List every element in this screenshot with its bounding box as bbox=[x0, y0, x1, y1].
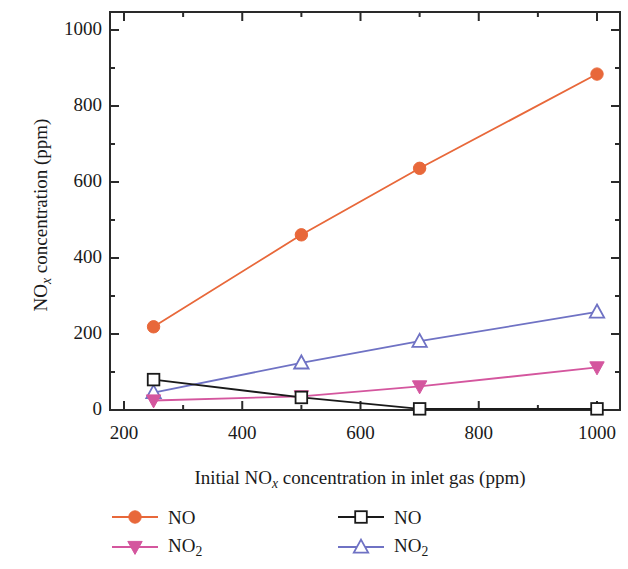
legend-item[interactable]: NO2 bbox=[338, 534, 428, 560]
legend-item[interactable]: NO bbox=[338, 504, 421, 530]
legend-label: NO2 bbox=[168, 536, 202, 559]
x-axis-tick-label: 800 bbox=[444, 422, 514, 444]
series-line bbox=[154, 367, 597, 400]
legend-label: NO2 bbox=[394, 536, 428, 559]
y-axis-tick-label: 0 bbox=[32, 398, 102, 420]
series-line bbox=[154, 380, 597, 409]
data-point-marker bbox=[355, 511, 367, 523]
y-axis-title-pre: NO bbox=[30, 284, 51, 311]
y-axis-tick-label: 600 bbox=[32, 170, 102, 192]
data-point-marker bbox=[129, 511, 141, 523]
legend-label-subscript: 2 bbox=[195, 544, 202, 559]
data-point-marker bbox=[148, 374, 160, 386]
data-point-marker bbox=[146, 395, 160, 408]
x-axis-tick-label: 400 bbox=[207, 422, 277, 444]
data-point-marker bbox=[413, 162, 425, 174]
data-point-marker bbox=[128, 541, 142, 554]
data-point-marker bbox=[147, 321, 159, 333]
legend-label-subscript: 2 bbox=[421, 544, 428, 559]
legend-item[interactable]: NO2 bbox=[112, 534, 202, 560]
data-point-marker bbox=[414, 403, 426, 415]
chart-figure: NOx concentration (ppm) Initial NOx conc… bbox=[0, 0, 628, 569]
data-series bbox=[147, 68, 603, 333]
legend-label-text: NO bbox=[168, 507, 195, 528]
y-axis-title-subscript: x bbox=[39, 278, 54, 284]
data-point-marker bbox=[591, 68, 603, 80]
x-axis-title-pre: Initial NO bbox=[194, 467, 272, 488]
data-point-marker bbox=[295, 229, 307, 241]
y-axis-tick-label: 400 bbox=[32, 246, 102, 268]
data-series bbox=[146, 305, 604, 399]
legend-label-text: NO bbox=[394, 535, 421, 556]
data-point-marker bbox=[590, 305, 604, 318]
legend-marker-open-up-triangle-icon bbox=[338, 537, 384, 557]
legend-label: NO bbox=[168, 508, 195, 527]
y-axis-tick-label: 1000 bbox=[32, 18, 102, 40]
x-axis-tick-label: 600 bbox=[326, 422, 396, 444]
chart-legend: NONO2NONO2 bbox=[0, 500, 628, 569]
legend-marker-open-square-icon bbox=[338, 507, 384, 527]
legend-marker-filled-circle-icon bbox=[112, 507, 158, 527]
y-axis-tick-label: 800 bbox=[32, 94, 102, 116]
series-line bbox=[154, 312, 597, 393]
legend-label-text: NO bbox=[394, 507, 421, 528]
data-point-marker bbox=[354, 540, 368, 553]
legend-item[interactable]: NO bbox=[112, 504, 195, 530]
data-point-marker bbox=[296, 392, 308, 404]
legend-marker-filled-down-triangle-icon bbox=[112, 537, 158, 557]
legend-label-text: NO bbox=[168, 535, 195, 556]
x-axis-title-post: concentration in inlet gas (ppm) bbox=[278, 467, 525, 488]
plot-frame bbox=[110, 12, 620, 410]
legend-label: NO bbox=[394, 508, 421, 527]
x-axis-title: Initial NOx concentration in inlet gas (… bbox=[110, 467, 610, 492]
data-point-marker bbox=[591, 403, 603, 415]
data-series bbox=[146, 362, 604, 408]
x-axis-tick-label: 200 bbox=[89, 422, 159, 444]
series-line bbox=[154, 74, 597, 327]
y-axis-tick-label: 200 bbox=[32, 322, 102, 344]
y-axis-title: NOx concentration (ppm) bbox=[30, 5, 55, 425]
x-axis-tick-label: 1000 bbox=[562, 422, 628, 444]
